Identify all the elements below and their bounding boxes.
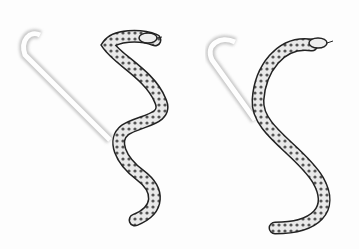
right-snake-head <box>309 38 327 48</box>
left-snake <box>108 33 162 220</box>
right-ghost-trail <box>210 40 255 120</box>
left-ghost-trail <box>24 34 110 140</box>
right-snake <box>258 38 333 228</box>
right-snake-tongue <box>327 41 333 43</box>
snakes-illustration <box>0 0 359 249</box>
illustration-canvas <box>0 0 359 249</box>
left-snake-head <box>139 33 157 43</box>
